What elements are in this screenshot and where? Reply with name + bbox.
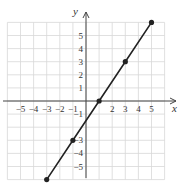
data-point [149, 20, 154, 25]
y-axis-label: y [72, 5, 78, 17]
x-tick-label: −2 [55, 104, 65, 114]
x-tick-label: 3 [123, 104, 128, 114]
x-tick-label: 4 [136, 104, 141, 114]
x-tick-label: 5 [149, 104, 154, 114]
data-point [70, 138, 75, 143]
y-tick-label: −4 [73, 148, 83, 158]
y-tick-label: 1 [79, 83, 84, 93]
y-tick-label: 5 [79, 31, 84, 41]
x-tick-label: −5 [16, 104, 26, 114]
y-tick-label: 2 [79, 70, 84, 80]
y-tick-label: 3 [79, 57, 84, 67]
y-tick-label: −5 [73, 162, 83, 172]
x-tick-label: 2 [110, 104, 115, 114]
y-tick-label: 4 [79, 44, 84, 54]
y-tick-label: −1 [73, 109, 83, 119]
data-point [97, 98, 102, 103]
coordinate-plane: −5−4−3−2−1234554321−1−3−4−5 x y [0, 0, 183, 188]
data-point [123, 59, 128, 64]
x-axis-label: x [171, 102, 177, 114]
x-tick-label: −3 [42, 104, 52, 114]
data-point [44, 177, 49, 182]
x-tick-label: −4 [29, 104, 39, 114]
